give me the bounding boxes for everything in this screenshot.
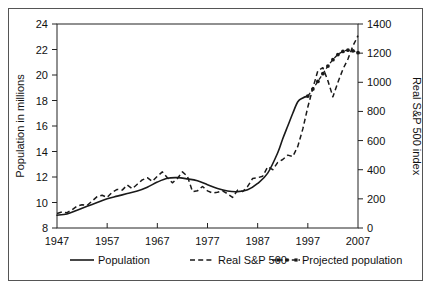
chart-canvas: 81012141618202224 0200400600800100012001… [0, 0, 433, 297]
series-line-sp500 [57, 36, 358, 214]
y-tick-label: 10 [36, 197, 48, 209]
legend-item[interactable]: Projected population [272, 254, 402, 266]
legend-item[interactable]: Population [70, 254, 150, 266]
y-tick-label: 16 [36, 120, 48, 132]
y2-tick-label: 400 [367, 164, 385, 176]
series-line-projected-population [308, 50, 358, 96]
x-tick-label: 1957 [95, 235, 119, 247]
y2-tick-label: 800 [367, 105, 385, 117]
data-series-layer [57, 36, 360, 216]
right-axis-ticks: 0200400600800100012001400 [358, 18, 391, 234]
x-tick-label: 1977 [195, 235, 219, 247]
x-tick-label: 2007 [346, 235, 370, 247]
series-marker-projected [306, 94, 310, 98]
series-marker-projected [336, 53, 340, 57]
y2-tick-label: 1400 [367, 18, 391, 30]
y2-tick-label: 1200 [367, 47, 391, 59]
series-line-population [57, 96, 308, 215]
y-tick-label: 8 [42, 222, 48, 234]
y2-tick-label: 0 [367, 222, 373, 234]
series-marker-projected [326, 64, 330, 68]
y2-tick-label: 1000 [367, 76, 391, 88]
plot-axes [57, 24, 358, 228]
legend-marker-projected [294, 258, 297, 261]
series-marker-projected [351, 49, 355, 53]
figure-container: 81012141618202224 0200400600800100012001… [0, 0, 433, 297]
series-marker-projected [311, 87, 315, 91]
y-tick-label: 18 [36, 95, 48, 107]
legend-marker-projected [285, 258, 288, 261]
y-tick-label: 24 [36, 18, 48, 30]
series-marker-projected [346, 48, 350, 52]
series-marker-projected [356, 51, 360, 55]
x-axis-ticks: 1947195719671977198719972007 [45, 223, 370, 247]
series-marker-projected [331, 58, 335, 62]
y-axis-title: Population in millions [14, 74, 26, 178]
x-tick-label: 1967 [145, 235, 169, 247]
x-tick-label: 1987 [245, 235, 269, 247]
y2-tick-label: 600 [367, 135, 385, 147]
y-tick-label: 22 [36, 44, 48, 56]
x-tick-label: 1997 [296, 235, 320, 247]
series-marker-projected [341, 50, 345, 54]
x-tick-label: 1947 [45, 235, 69, 247]
y-tick-label: 12 [36, 171, 48, 183]
legend-label: Population [98, 254, 150, 266]
y-tick-label: 14 [36, 146, 48, 158]
legend-label: Projected population [302, 254, 402, 266]
y2-axis-title: Real S&P 500 index [411, 77, 423, 176]
legend-marker-projected [276, 258, 279, 261]
y-tick-label: 20 [36, 69, 48, 81]
chart-legend: PopulationReal S&P 500Projected populati… [70, 254, 402, 266]
left-axis-ticks: 81012141618202224 [36, 18, 57, 234]
series-marker-projected [316, 79, 320, 83]
y2-tick-label: 200 [367, 193, 385, 205]
series-marker-projected [321, 72, 325, 76]
